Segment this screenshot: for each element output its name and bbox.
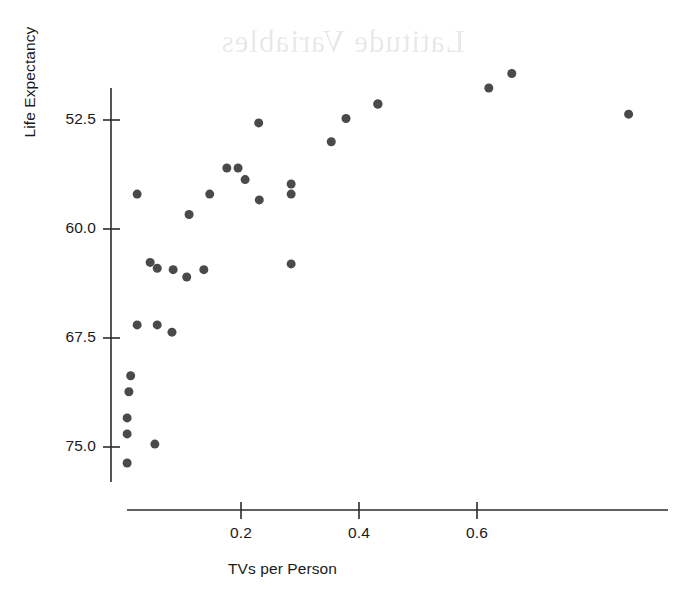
scatter-point [287, 179, 296, 188]
y-axis-group [103, 88, 120, 482]
scatter-point [327, 137, 336, 146]
scatter-point [167, 328, 176, 337]
y-axis-title: Life Expectancy [21, 0, 43, 192]
y-axis-tick-label: 75.0 [38, 437, 96, 455]
scatter-point [123, 458, 132, 467]
scatter-point [484, 84, 493, 93]
scatter-point [153, 320, 162, 329]
plot-canvas [0, 0, 685, 602]
scatter-point [126, 371, 135, 380]
scatter-point [507, 69, 516, 78]
y-axis-tick-label: 67.5 [38, 328, 96, 346]
scatter-point [146, 258, 155, 267]
x-axis-title: TVs per Person [0, 560, 565, 578]
scatter-point [133, 320, 142, 329]
scatter-point [624, 110, 633, 119]
y-axis-tick-label: 60.0 [38, 219, 96, 237]
scatter-point [222, 163, 231, 172]
scatter-point [123, 429, 132, 438]
scatter-point [150, 440, 159, 449]
scatter-point [153, 264, 162, 273]
scatter-point [133, 190, 142, 199]
x-axis-tick-label: 0.2 [216, 524, 266, 542]
scatter-point [124, 387, 133, 396]
x-axis-tick-label: 0.4 [334, 524, 384, 542]
scatter-point [342, 114, 351, 123]
scatter-point [373, 100, 382, 109]
scatter-point [234, 163, 243, 172]
scatter-point [205, 190, 214, 199]
scatter-point [185, 210, 194, 219]
scatter-plot-figure: Latitude Variables 75.067.560.052.5 0.20… [0, 0, 685, 602]
scatter-point [255, 195, 264, 204]
x-axis-tick-label: 0.6 [452, 524, 502, 542]
scatter-point [199, 265, 208, 274]
y-axis-tick-label: 52.5 [38, 110, 96, 128]
scatter-points-group [123, 69, 634, 467]
scatter-point [169, 265, 178, 274]
scatter-point [241, 175, 250, 184]
scatter-point [182, 272, 191, 281]
scatter-point [123, 413, 132, 422]
x-axis-group [127, 502, 668, 519]
scatter-point [287, 190, 296, 199]
scatter-point [287, 259, 296, 268]
scatter-point [254, 118, 263, 127]
